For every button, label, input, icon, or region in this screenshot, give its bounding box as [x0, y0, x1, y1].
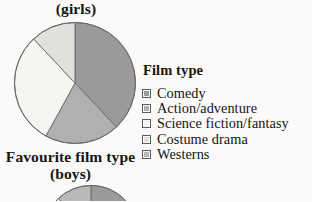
pie-girls-slices [14, 22, 135, 143]
chart-title-boys-line1: Favourite film type [6, 148, 135, 165]
chart-title-girls: (girls) [0, 0, 152, 18]
legend: Film type ComedyAction/adventureScience … [142, 62, 312, 162]
legend-label-westerns: Westerns [157, 147, 209, 162]
pie-chart-girls [13, 21, 137, 145]
legend-swatch-costume-drama [142, 135, 151, 144]
legend-label-action-adventure: Action/adventure [157, 101, 257, 116]
legend-swatch-inner [143, 120, 150, 127]
legend-label-comedy: Comedy [157, 86, 206, 101]
legend-swatch-inner [143, 90, 150, 97]
legend-item-science-fiction-fantasy: Science fiction/fantasy [142, 116, 312, 131]
legend-swatch-action-adventure [142, 104, 151, 113]
legend-item-comedy: Comedy [142, 86, 312, 101]
legend-swatch-inner [143, 136, 150, 143]
pie-chart-boys [42, 184, 140, 201]
legend-label-science-fiction-fantasy: Science fiction/fantasy [157, 116, 289, 131]
chart-title-boys-line2: (boys) [0, 165, 141, 182]
legend-label-costume-drama: Costume drama [157, 132, 248, 147]
legend-swatch-westerns [142, 150, 151, 159]
pie-girls-svg [13, 21, 137, 145]
chart-title-boys: Favourite film type (boys) [0, 148, 141, 182]
legend-swatch-comedy [142, 89, 151, 98]
pie-slice-comedy [91, 186, 139, 202]
legend-list: ComedyAction/adventureScience fiction/fa… [142, 86, 312, 162]
pie-boys-svg [42, 184, 140, 201]
legend-heading: Film type [143, 62, 312, 78]
legend-item-action-adventure: Action/adventure [142, 101, 312, 116]
legend-swatch-inner [143, 105, 150, 112]
pie-slice-westerns [58, 186, 91, 202]
legend-swatch-science-fiction-fantasy [142, 119, 151, 128]
pie-chart-figure: (girls) Favourite film type (boys) Film … [0, 0, 312, 201]
legend-swatch-inner [143, 151, 150, 158]
legend-item-costume-drama: Costume drama [142, 132, 312, 147]
legend-item-westerns: Westerns [142, 147, 312, 162]
